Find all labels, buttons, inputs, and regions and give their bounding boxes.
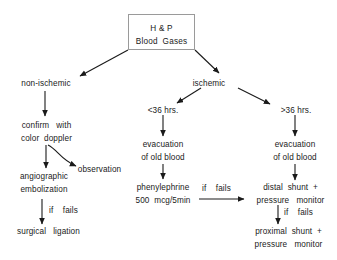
node-angiographic-embolization-line1: angiographic — [0, 170, 88, 183]
branch-label-ischemic: ischemic — [178, 77, 240, 90]
edge-ischemic-to-under36 — [177, 88, 201, 103]
node-phenylephrine-line2: 500 mcg/5min — [119, 194, 207, 207]
node-distal-shunt-line1: distal shunt + — [244, 181, 337, 194]
node-evacuation-old-blood-right-line2: of old blood — [254, 151, 336, 164]
edge-label-if-fails-distal: if fails — [284, 207, 313, 219]
node-evacuation-old-blood-mid-line2: of old blood — [122, 151, 204, 164]
node-phenylephrine-line1: phenylephrine — [119, 181, 207, 194]
node-surgical-ligation: surgical ligation — [0, 225, 97, 238]
edge-root-to-nonischemic — [80, 50, 128, 76]
flowchart-diagram: H & P Blood Gases non-ischemic ischemic … — [0, 0, 337, 260]
root-node-box: H & P Blood Gases — [128, 14, 195, 50]
edge-ischemic-to-over36 — [238, 88, 270, 104]
node-distal-shunt-line2: pressure monitor — [244, 194, 337, 207]
node-confirm-color-doppler-line2: color doppler — [0, 132, 93, 145]
node-confirm-color-doppler-line1: confirm with — [0, 119, 93, 132]
edge-label-if-fails-angiographic: if fails — [49, 205, 78, 217]
node-evacuation-old-blood-right-line1: evacuation — [254, 138, 336, 151]
node-proximal-shunt-line2: pressure monitor — [240, 238, 337, 251]
root-node-line2: Blood Gases — [129, 35, 194, 48]
edge-root-to-ischemic — [195, 50, 219, 73]
node-evacuation-old-blood-mid-line1: evacuation — [122, 138, 204, 151]
branch-label-under-36-hrs: <36 hrs. — [134, 104, 192, 117]
node-proximal-shunt-line1: proximal shunt + — [240, 225, 337, 238]
edge-label-if-fails-phenylephrine: if fails — [202, 183, 231, 195]
branch-label-over-36-hrs: >36 hrs. — [267, 104, 325, 117]
branch-label-non-ischemic: non-ischemic — [0, 77, 92, 90]
node-angiographic-embolization-line2: embolization — [0, 183, 88, 196]
root-node-line1: H & P — [129, 22, 194, 35]
